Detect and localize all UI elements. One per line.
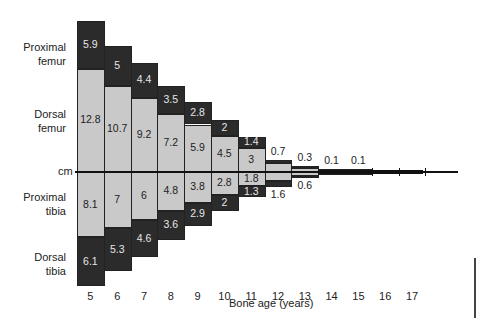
- x-tick-label: 5: [78, 290, 102, 302]
- row-label-line: Proximal: [23, 40, 66, 54]
- value-label: 0.7: [263, 145, 293, 157]
- x-axis-label: Bone age (years): [229, 297, 313, 309]
- value-label: 9.2: [129, 128, 159, 140]
- bar-proximal-femur: [265, 160, 293, 163]
- value-label: 5.3: [102, 243, 132, 255]
- value-label: 6.1: [75, 255, 105, 267]
- row-label-dorsal-femur: Dorsal femur: [34, 107, 66, 135]
- value-label: 0.3: [290, 151, 320, 163]
- x-tick-label: 16: [373, 290, 397, 302]
- value-label: 7: [102, 193, 132, 205]
- value-label: 0.1: [343, 154, 373, 166]
- x-tick-label: 6: [105, 290, 129, 302]
- value-label: 2.9: [183, 207, 213, 219]
- value-label: 3: [236, 153, 266, 165]
- row-label-line: Dorsal: [34, 250, 66, 264]
- value-label: 8.1: [75, 198, 105, 210]
- value-label: 2.8: [209, 176, 239, 188]
- value-label: 1.8: [236, 172, 266, 184]
- x-tick-label: 9: [186, 290, 210, 302]
- value-label: 3.6: [156, 218, 186, 230]
- value-label: 1.6: [263, 188, 293, 200]
- axis-unit-label: cm: [58, 165, 73, 177]
- row-label-proximal-tibia: Proximal tibia: [23, 190, 66, 218]
- axis-tick-mark: [372, 168, 373, 176]
- value-label: 10.7: [102, 122, 132, 134]
- value-label: 4.4: [129, 73, 159, 85]
- x-tick-label: 8: [159, 290, 183, 302]
- value-label: 12.8: [75, 113, 105, 125]
- growth-chart: Proximal femur Dorsal femur cm Proximal …: [0, 0, 478, 330]
- axis-thick-tail: [318, 170, 423, 174]
- x-tick-label: 17: [400, 290, 424, 302]
- value-label: 6: [129, 189, 159, 201]
- value-label: 1.3: [236, 185, 266, 197]
- page-edge-mark: [474, 258, 476, 318]
- row-label-dorsal-tibia: Dorsal tibia: [34, 250, 66, 278]
- value-label: 4.5: [209, 147, 239, 159]
- value-label: 0.6: [290, 179, 320, 191]
- row-label-proximal-femur: Proximal femur: [23, 40, 66, 68]
- value-label: 3.8: [183, 180, 213, 192]
- value-label: 0.1: [317, 154, 347, 166]
- row-label-line: tibia: [23, 204, 66, 218]
- x-tick-label: 7: [132, 290, 156, 302]
- bar-dorsal-tibia: [291, 176, 319, 178]
- x-tick-label: 15: [346, 290, 370, 302]
- value-label: 5.9: [75, 38, 105, 50]
- value-label: 4.8: [156, 184, 186, 196]
- value-label: 2: [209, 196, 239, 208]
- value-label: 2.8: [183, 106, 213, 118]
- row-label-line: Dorsal: [34, 107, 66, 121]
- row-label-line: tibia: [34, 264, 66, 278]
- row-label-line: femur: [34, 121, 66, 135]
- value-label: 2: [209, 121, 239, 133]
- axis-tick-mark: [399, 168, 400, 176]
- row-label-line: Proximal: [23, 190, 66, 204]
- value-label: 5.9: [183, 141, 213, 153]
- value-label: 7.2: [156, 136, 186, 148]
- value-label: 4.6: [129, 232, 159, 244]
- value-label: 5: [102, 59, 132, 71]
- value-label: 1.4: [236, 135, 266, 147]
- bar-dorsal-tibia: [265, 181, 293, 187]
- axis-tick-mark: [425, 168, 426, 176]
- value-label: 3.5: [156, 93, 186, 105]
- bar-proximal-femur: [291, 166, 319, 168]
- x-tick-label: 14: [320, 290, 344, 302]
- row-label-line: femur: [23, 54, 66, 68]
